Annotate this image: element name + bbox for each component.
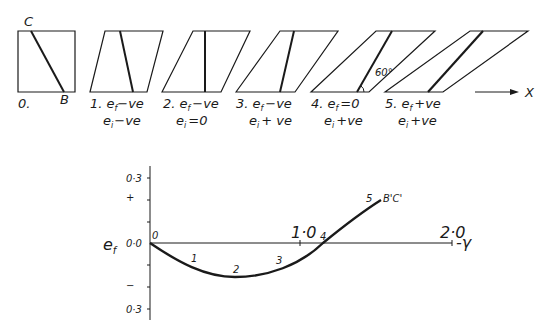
y-axis-label: ef <box>103 235 118 256</box>
svg-text:ei+ve: ei+ve <box>324 113 363 130</box>
svg-text:ei−ve: ei−ve <box>103 113 141 130</box>
y-tick-top: 0·3 <box>126 173 142 184</box>
corner-label-b: B <box>60 92 69 107</box>
state-5-label: 5.ef+ve ei+ve <box>385 96 441 130</box>
shape-1 <box>90 31 163 92</box>
svg-text:4.ef=0: 4.ef=0 <box>311 96 359 113</box>
state-0-num: 0. <box>18 96 30 111</box>
svg-text:ei=0: ei=0 <box>176 113 207 130</box>
direction-arrow <box>475 89 519 95</box>
shape-4 <box>311 31 435 92</box>
shape-2 <box>162 31 250 92</box>
point-label-0: 0 <box>152 230 158 241</box>
x-tick-1: 1·0 <box>291 223 316 242</box>
state-2-label: 2.ef−ve ei=0 <box>163 96 219 130</box>
svg-text:3.ef−ve: 3.ef−ve <box>236 96 292 113</box>
point-label-5: 5 <box>366 193 372 204</box>
svg-text:5.ef+ve: 5.ef+ve <box>385 96 441 113</box>
shape-5 <box>385 31 528 92</box>
ef-curve <box>150 200 381 277</box>
state-4-label: 4.ef=0 ei+ve <box>311 96 363 130</box>
corner-label-c: C <box>24 14 34 29</box>
x-axis-label: -γ <box>456 233 473 252</box>
figure: C B 60° X 0. 1.ef−ve ei−ve 2.ef−ve ei=0 … <box>0 0 547 325</box>
angle-label: 60° <box>375 67 393 78</box>
shape-3 <box>236 31 338 92</box>
y-axis <box>147 166 150 320</box>
svg-text:1.ef−ve: 1.ef−ve <box>90 96 144 113</box>
y-tick-zero: 0·0 <box>126 238 142 249</box>
x-direction-label: X <box>524 85 535 100</box>
state-3-label: 3.ef−ve ei+ ve <box>236 96 292 130</box>
point-label-4: 4 <box>320 231 326 242</box>
svg-text:2.ef−ve: 2.ef−ve <box>163 96 219 113</box>
svg-text:ei+ve: ei+ve <box>398 113 437 130</box>
curve-end-label: B'C' <box>383 193 402 204</box>
y-tick-bottom: 0·3 <box>126 304 142 315</box>
y-sign-plus: + <box>126 192 134 203</box>
shape-0-square <box>18 31 75 92</box>
point-label-3: 3 <box>276 255 282 266</box>
state-1-label: 1.ef−ve ei−ve <box>90 96 144 130</box>
point-label-2: 2 <box>233 264 239 275</box>
svg-text:ei+ ve: ei+ ve <box>249 113 292 130</box>
point-label-1: 1 <box>191 253 197 264</box>
y-sign-minus: − <box>126 280 134 291</box>
